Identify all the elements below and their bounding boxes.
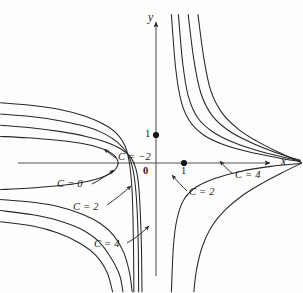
contour-label-c-2-right: C = 2	[189, 187, 215, 198]
contour-2-left-upper	[1, 114, 139, 292]
contour-label-c-2-left: C = 2	[73, 202, 99, 213]
leader-c-0-left	[92, 170, 114, 184]
contour-0-right	[178, 15, 300, 161]
y-axis-label: y	[148, 12, 153, 24]
marked-points	[153, 132, 187, 166]
x-tick-label-1: 1	[181, 166, 186, 177]
leader-c-neg2	[104, 149, 116, 158]
origin-label: 0	[143, 166, 148, 177]
contour-4-right-lower	[194, 163, 302, 292]
contour-label-c-neg2: C = −2	[118, 152, 151, 163]
contour-4-left-lower	[1, 222, 113, 292]
point-y-1	[153, 132, 159, 138]
contour-2-right	[188, 15, 300, 161]
plot-canvas	[0, 0, 303, 293]
contour-label-c-4-left: C = 4	[94, 239, 120, 250]
level-curves-figure: y x 0 1 1 C = −2 C = 0 C = 2 C = 4 C = 2…	[0, 0, 303, 293]
leader-c-2-left	[107, 186, 131, 205]
leader-c-2-right	[172, 175, 187, 191]
y-tick-label-1: 1	[145, 129, 150, 140]
contour-label-c-0-left: C = 0	[57, 179, 83, 190]
contour-label-c-4-right: C = 4	[235, 170, 261, 181]
contour-curves	[1, 15, 302, 292]
x-axis-label: x	[281, 156, 286, 168]
contour-neg2-right-lower	[171, 164, 300, 292]
contour-2-left-lower	[1, 211, 123, 292]
axes	[18, 22, 270, 276]
